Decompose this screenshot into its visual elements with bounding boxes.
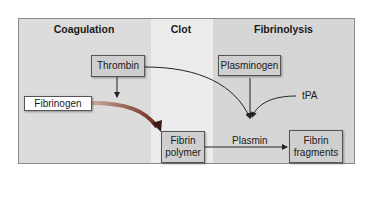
arrow-fibrinogen-to-polymer bbox=[92, 103, 157, 127]
arrow-tpa-to-plasmin bbox=[252, 96, 296, 117]
label-tpa: tPA bbox=[302, 90, 317, 101]
node-thrombin: Thrombin bbox=[91, 55, 145, 77]
node-fibrin-fragments: Fibrin fragments bbox=[289, 130, 343, 163]
node-fibrinogen: Fibrinogen bbox=[24, 96, 92, 111]
label-plasmin: Plasmin bbox=[232, 135, 268, 146]
node-plasminogen: Plasminogen bbox=[218, 55, 281, 76]
node-fibrin-polymer: Fibrin polymer bbox=[161, 131, 205, 163]
